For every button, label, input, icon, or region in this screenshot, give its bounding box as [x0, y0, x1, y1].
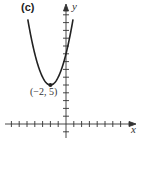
vertex-label: (−2, 5) [30, 86, 57, 97]
parabola-graph [0, 0, 141, 177]
x-axis-label: x [131, 123, 136, 135]
axes [5, 4, 136, 138]
y-axis-label: y [72, 0, 77, 12]
panel-label: (c) [21, 1, 34, 13]
